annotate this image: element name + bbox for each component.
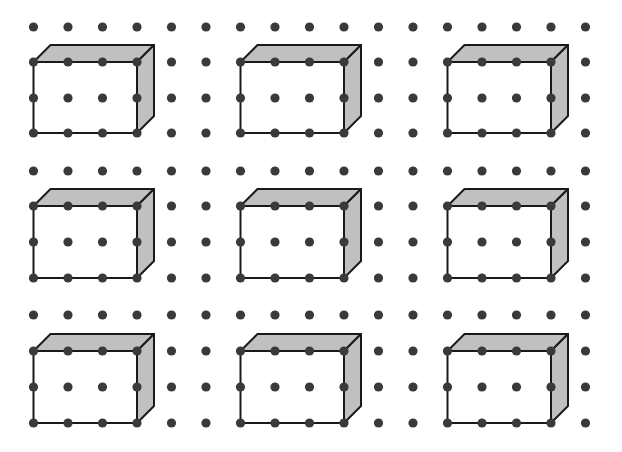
grid-dot [581,273,590,282]
grid-dot [546,382,555,391]
grid-dot [477,237,486,246]
grid-dot [236,310,245,319]
grid-dot [546,237,555,246]
grid-dot [374,57,383,66]
grid-dot [581,382,590,391]
grid-dot [374,310,383,319]
grid-dot [339,382,348,391]
diagram-canvas: Dot grid with 3×3 array of rectangular p… [0,0,622,452]
grid-dot [339,346,348,355]
grid-dot [29,22,38,31]
grid-dot [374,166,383,175]
grid-dot [339,273,348,282]
grid-dot [581,57,590,66]
grid-dot [443,93,452,102]
grid-dot [546,57,555,66]
grid-dot [408,346,417,355]
grid-dot [443,382,452,391]
grid-dot [477,166,486,175]
grid-dot [305,22,314,31]
grid-dot [305,128,314,137]
grid-dot [477,346,486,355]
grid-dot [167,57,176,66]
grid-dot [236,201,245,210]
grid-dot [201,128,210,137]
grid-dot [167,273,176,282]
grid-dot [167,237,176,246]
grid-dot [443,57,452,66]
grid-dot [305,418,314,427]
grid-dot [201,310,210,319]
grid-dot [201,57,210,66]
grid-dot [270,273,279,282]
grid-dot [305,237,314,246]
grid-dot [167,418,176,427]
grid-dot [339,418,348,427]
grid-dot [339,201,348,210]
grid-dot [201,273,210,282]
grid-dot [512,237,521,246]
grid-dot [98,201,107,210]
grid-dot [305,273,314,282]
grid-dot [270,418,279,427]
grid-dot [201,166,210,175]
prism-front-face [241,206,345,278]
grid-dot [63,418,72,427]
grid-dot [339,93,348,102]
grid-dot [512,273,521,282]
grid-dot [581,93,590,102]
grid-dot [270,93,279,102]
grid-dot [236,57,245,66]
grid-dot [546,346,555,355]
grid-dot [132,57,141,66]
grid-dot [270,166,279,175]
grid-dot [374,93,383,102]
grid-dot [339,57,348,66]
grid-dot [132,201,141,210]
grid-dot [236,93,245,102]
prism-front-face [448,206,552,278]
grid-dot [339,237,348,246]
grid-dot [512,128,521,137]
grid-dot [63,310,72,319]
grid-dot [236,273,245,282]
grid-dot [63,346,72,355]
grid-dot [408,57,417,66]
grid-dot [270,128,279,137]
grid-dot [98,310,107,319]
grid-dot [29,237,38,246]
grid-dot [339,166,348,175]
grid-dot [581,237,590,246]
grid-dot [443,237,452,246]
grid-dot [512,346,521,355]
prism-front-face [241,351,345,423]
grid-dot [201,201,210,210]
grid-dot [270,201,279,210]
grid-dot [512,382,521,391]
grid-dot [270,310,279,319]
grid-dot [443,128,452,137]
grid-dot [477,57,486,66]
grid-dot [270,382,279,391]
grid-dot [201,418,210,427]
prism-front-face [34,62,138,133]
grid-dot [98,382,107,391]
grid-dot [305,310,314,319]
grid-dot [512,22,521,31]
grid-dot [374,128,383,137]
grid-dot [236,166,245,175]
grid-dot [477,273,486,282]
grid-dot [270,346,279,355]
grid-dot [408,418,417,427]
grid-dot [339,128,348,137]
grid-dot [98,237,107,246]
grid-dot [546,166,555,175]
grid-dot [581,418,590,427]
grid-dot [408,237,417,246]
grid-dot [201,237,210,246]
grid-dot [374,273,383,282]
grid-dot [443,273,452,282]
grid-dot [98,418,107,427]
grid-dot [512,310,521,319]
grid-dot [29,418,38,427]
